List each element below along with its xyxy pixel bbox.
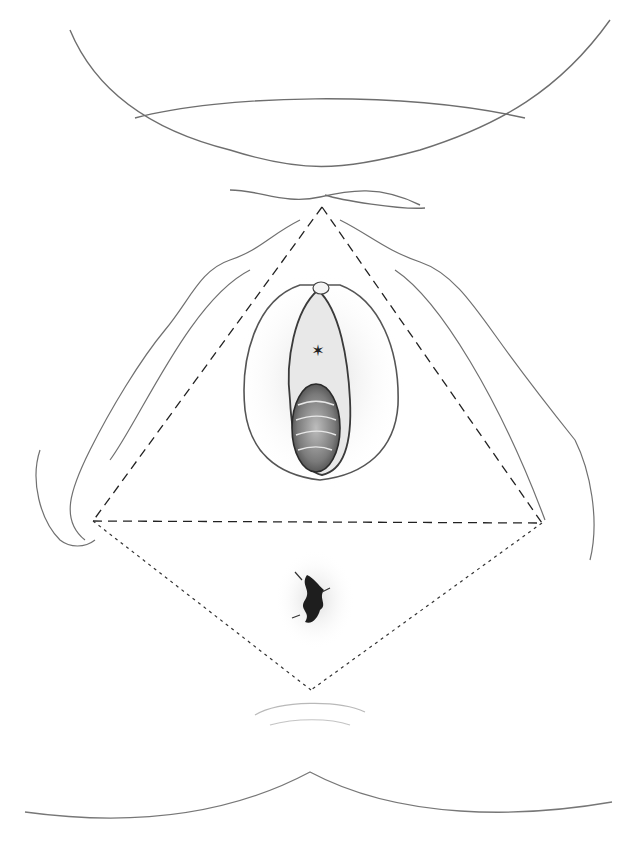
star-marker-icon: ✶ bbox=[311, 341, 324, 360]
thigh-outlines bbox=[70, 20, 610, 208]
illustration-canvas: Perineal region with urogenital and anal… bbox=[0, 0, 629, 841]
vulva: ✶ bbox=[235, 270, 405, 490]
vaginal-opening bbox=[292, 384, 340, 472]
perineum-illustration: ✶ bbox=[0, 0, 629, 841]
anus bbox=[275, 550, 355, 650]
gluteal-contours bbox=[25, 703, 612, 818]
